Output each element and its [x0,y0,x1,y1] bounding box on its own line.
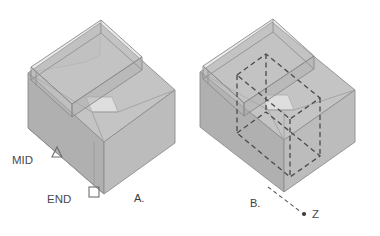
panel-a-caption: A. [134,192,144,204]
figure-root: MID END A. [0,0,380,236]
panel-b-caption: B. [250,197,260,209]
z-point-label: Z [312,208,319,220]
mid-marker-label: MID [12,154,33,166]
diagram-canvas: MID END A. [0,0,380,236]
z-point-dot-icon [302,212,306,216]
end-marker-label: END [47,193,71,205]
panel-b-group: Z B. [200,19,355,220]
panel-a-group: MID END A. [12,20,175,205]
